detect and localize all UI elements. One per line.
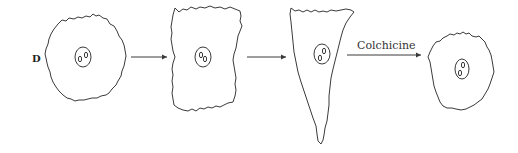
cell-4-nucleolus (458, 70, 461, 76)
cell-1-rounded (45, 14, 126, 101)
cell-3-nucleus (314, 44, 330, 64)
cell-3-nucleolus (318, 55, 321, 61)
cell-3-elongated (290, 8, 354, 144)
cell-2-nucleolus (199, 52, 202, 58)
panel-label: D (32, 53, 41, 64)
cell-1-nucleolus (84, 52, 87, 58)
cell-3-nucleolus (322, 48, 325, 54)
cell-1-nucleus (75, 47, 91, 67)
cell-2-flattened (171, 6, 242, 111)
cell-4-rounded-colchicine (428, 32, 494, 110)
cell-2-nucleus (195, 47, 211, 67)
cell-3-membrane (290, 8, 354, 144)
cell-shape-diagram: D Colchicine (0, 0, 518, 153)
cell-4-nucleolus (461, 62, 464, 68)
colchicine-label: Colchicine (357, 39, 416, 52)
cell-2-nucleolus (203, 56, 206, 62)
cell-1-nucleolus (78, 56, 81, 62)
